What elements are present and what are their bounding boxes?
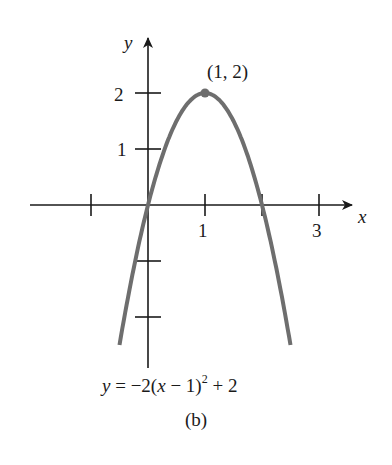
parabola-curve — [120, 93, 291, 345]
equation-lhs: y — [102, 375, 110, 396]
equation-suffix: + 2 — [208, 375, 238, 396]
tick-label-x-1: 1 — [198, 221, 208, 240]
equation-var: x — [157, 375, 165, 396]
x-axis-label: x — [358, 207, 366, 226]
tick-label-x-3: 3 — [312, 221, 322, 240]
tick-label-y-1: 1 — [117, 140, 127, 159]
equation-prefix: = −2( — [115, 375, 157, 396]
tick-label-y-2: 2 — [114, 85, 124, 104]
figure-caption: (b) — [185, 409, 207, 431]
y-axis-label: y — [124, 33, 132, 52]
equation-mid: − 1) — [166, 375, 202, 396]
vertex-marker — [201, 89, 210, 98]
vertex-label: (1, 2) — [207, 62, 248, 81]
equation-label: y = −2(x − 1)2 + 2 — [102, 372, 237, 397]
